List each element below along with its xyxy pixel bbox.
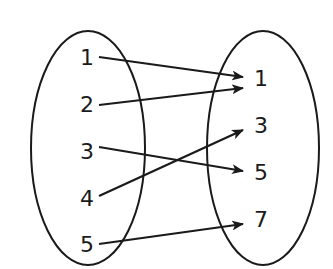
- range-value-1: 1: [254, 66, 268, 91]
- range-values: 1357: [254, 66, 268, 232]
- arrow-3-to-5: [99, 147, 243, 171]
- mapping-arrows: [99, 57, 243, 244]
- mapping-diagram-canvas: 12345 1357: [0, 0, 333, 269]
- domain-value-5: 5: [80, 232, 94, 257]
- domain-value-1: 1: [80, 45, 94, 70]
- domain-value-4: 4: [80, 186, 94, 211]
- arrow-5-to-7: [99, 224, 243, 244]
- arrow-2-to-1: [99, 88, 243, 105]
- range-value-7: 7: [254, 207, 268, 232]
- arrow-4-to-3: [99, 130, 243, 196]
- domain-values: 12345: [80, 45, 94, 257]
- mapping-diagram: 12345 1357: [0, 0, 333, 269]
- arrow-1-to-1: [99, 57, 243, 77]
- domain-value-3: 3: [80, 139, 94, 164]
- domain-value-2: 2: [80, 92, 94, 117]
- range-value-5: 5: [254, 160, 268, 185]
- range-value-3: 3: [254, 113, 268, 138]
